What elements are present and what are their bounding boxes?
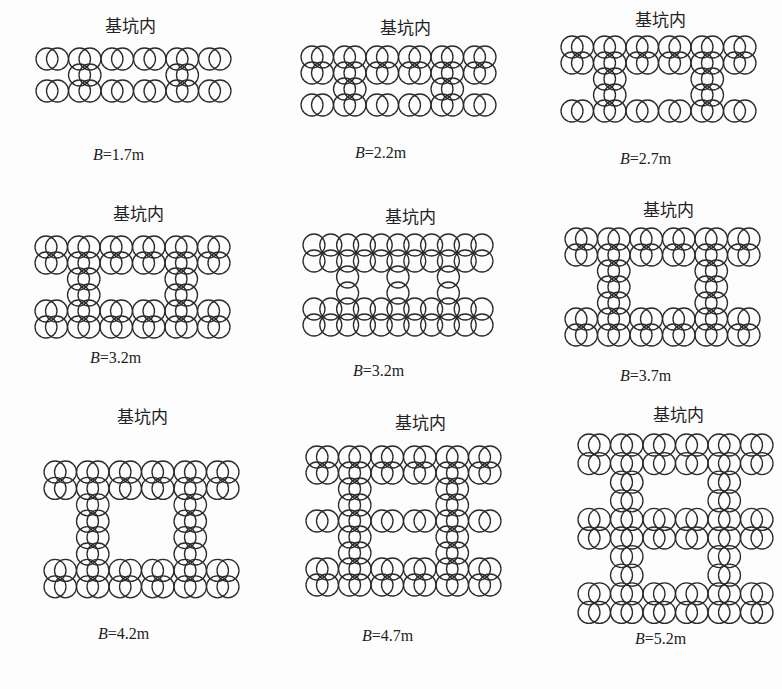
pile-arrangement-diagram (560, 35, 757, 123)
pile-circle (337, 314, 359, 336)
width-label: B=3.2m (353, 362, 404, 380)
pile-arrangement-diagram (577, 433, 774, 624)
width-label: B=1.7m (93, 146, 144, 164)
pile-circle (421, 314, 443, 336)
width-variable: B (362, 627, 372, 644)
width-label: B=3.7m (620, 367, 671, 385)
pile-arrangement-diagram (34, 235, 231, 339)
inside-pit-label: 基坑内 (380, 18, 431, 38)
figure-canvas: 基坑内 B=1.7m 基坑内 B=2.2m 基坑内 B=2.7m 基坑内 B=3… (0, 0, 782, 689)
inside-pit-label: 基坑内 (113, 204, 164, 224)
inside-pit-label: 基坑内 (395, 413, 446, 433)
pile-arrangement-diagram (35, 47, 232, 103)
inside-pit-label: 基坑内 (385, 207, 436, 227)
pile-circle (353, 250, 375, 272)
width-value: =2.2m (365, 144, 406, 161)
pile-arrangement-diagram (43, 460, 240, 599)
pile-circle (387, 314, 409, 336)
pile-circle (353, 314, 375, 336)
pile-arrangement-diagram (302, 233, 494, 337)
width-label: B=2.2m (355, 144, 406, 162)
width-variable: B (620, 367, 630, 384)
width-variable: B (93, 146, 103, 163)
width-value: =4.2m (108, 625, 149, 642)
inside-pit-label: 基坑内 (117, 407, 168, 427)
width-value: =4.7m (372, 627, 413, 644)
width-variable: B (635, 630, 645, 647)
pile-arrangement-diagram (300, 45, 497, 117)
pile-circle (404, 250, 426, 272)
width-variable: B (355, 144, 365, 161)
width-value: =2.7m (630, 150, 671, 167)
width-label: B=5.2m (635, 630, 686, 648)
pile-circle (320, 314, 342, 336)
pile-circle (471, 314, 493, 336)
width-value: =5.2m (645, 630, 686, 647)
width-label: B=2.7m (620, 150, 671, 168)
inside-pit-label: 基坑内 (643, 200, 694, 220)
pile-circle (421, 250, 443, 272)
width-variable: B (98, 625, 108, 642)
pile-circle (370, 314, 392, 336)
pile-circle (404, 314, 426, 336)
pile-circle (320, 250, 342, 272)
inside-pit-label: 基坑内 (653, 405, 704, 425)
width-value: =3.7m (630, 367, 671, 384)
pile-arrangement-diagram (305, 445, 502, 597)
width-label: B=4.2m (98, 625, 149, 643)
width-variable: B (620, 150, 630, 167)
inside-pit-label: 基坑内 (635, 10, 686, 30)
pile-arrangement-diagram (564, 227, 761, 347)
inside-pit-label: 基坑内 (105, 16, 156, 36)
pile-circle (370, 250, 392, 272)
pile-circle (471, 250, 493, 272)
pile-circle (454, 250, 476, 272)
width-value: =1.7m (103, 146, 144, 163)
width-value: =3.2m (363, 362, 404, 379)
width-variable: B (353, 362, 363, 379)
pile-circle (303, 314, 325, 336)
width-value: =3.2m (100, 349, 141, 366)
width-variable: B (90, 349, 100, 366)
width-label: B=4.7m (362, 627, 413, 645)
width-label: B=3.2m (90, 349, 141, 367)
pile-circle (303, 250, 325, 272)
pile-circle (454, 314, 476, 336)
pile-circle (437, 314, 459, 336)
